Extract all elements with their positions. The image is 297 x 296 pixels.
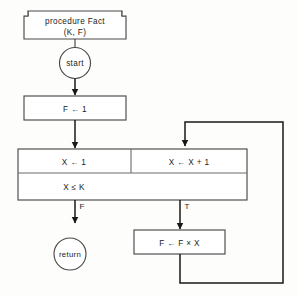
init-x-label: X ← 1 (62, 158, 87, 167)
return-label: return (59, 250, 81, 259)
flowchart-svg: procedure Fact (K, F) start F ← 1 X ← (0, 0, 297, 296)
procedure-header-line2: (K, F) (64, 28, 87, 37)
node-procedure-header: procedure Fact (K, F) (24, 11, 126, 39)
incr-x-label: X ← X + 1 (169, 158, 210, 167)
procedure-header-line1: procedure Fact (45, 17, 105, 26)
init-f-label: F ← 1 (63, 105, 87, 114)
node-accumulate: F ← F × X (134, 230, 225, 254)
flowchart-canvas: procedure Fact (K, F) start F ← 1 X ← (0, 0, 297, 296)
branch-label-false: F (80, 202, 85, 211)
accumulate-label: F ← F × X (159, 239, 200, 248)
node-start: start (60, 48, 91, 79)
node-return: return (54, 238, 86, 270)
edge-loop-back-to-incr-x (180, 122, 283, 283)
loop-composite-outer-frame (18, 149, 247, 200)
node-init-f: F ← 1 (24, 96, 126, 120)
node-loop-composite: X ← 1 X ← X + 1 X ≤ K (18, 149, 247, 200)
branch-label-true: T (185, 202, 190, 211)
start-label: start (66, 59, 84, 68)
condition-label: X ≤ K (63, 183, 85, 192)
